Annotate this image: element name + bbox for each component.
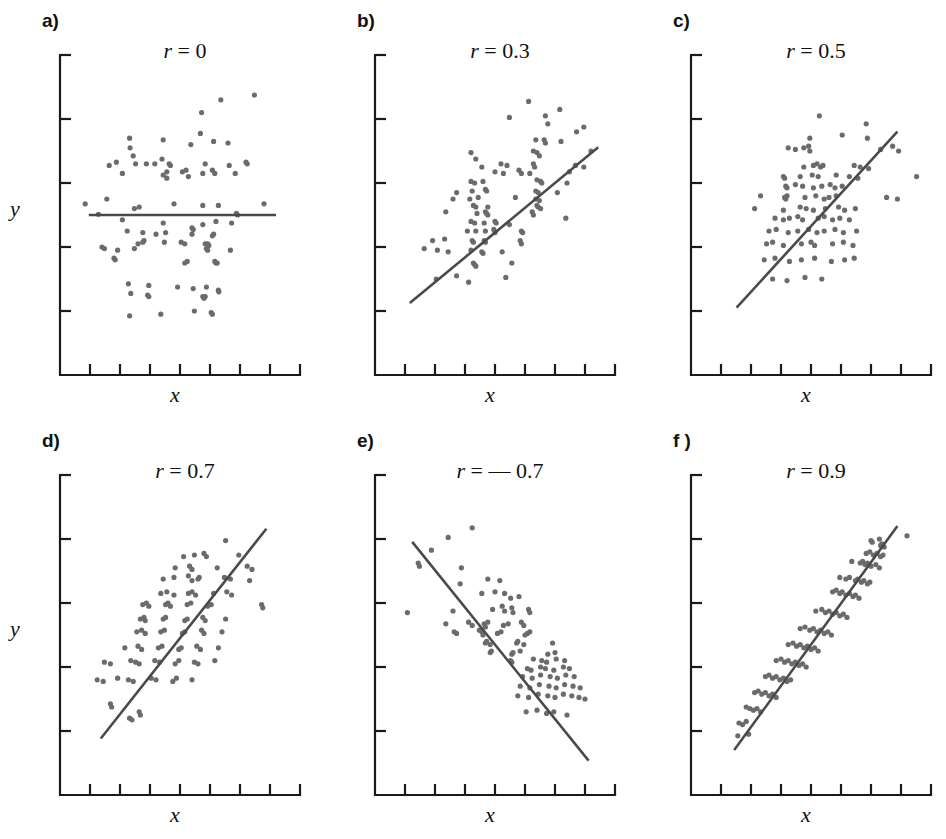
correlation-scatterplot-figure: a)r = 0yxb)r = 0.3xc)r = 0.5xd)r = 0.7yx…: [0, 0, 946, 839]
panel-b: b)r = 0.3x: [315, 0, 630, 419]
plot-area-d: [0, 420, 315, 839]
axis-spines: [375, 55, 615, 375]
scatter-points: [405, 525, 588, 717]
plot-area-b: [315, 0, 630, 419]
regression-line: [101, 529, 267, 739]
y-axis-ticks: [60, 475, 71, 731]
y-axis-ticks: [375, 475, 386, 731]
scatter-points: [95, 538, 266, 722]
plot-area-f: [631, 420, 946, 839]
x-axis-ticks: [90, 784, 300, 795]
scatter-points: [422, 99, 594, 285]
plot-area-e: [315, 420, 630, 839]
x-axis-ticks: [90, 364, 300, 375]
x-axis-ticks: [405, 784, 615, 795]
axis-spines: [60, 475, 300, 795]
x-axis-ticks: [405, 364, 615, 375]
x-axis-ticks: [721, 784, 931, 795]
scatter-points: [735, 533, 909, 738]
plot-area-a: [0, 0, 315, 419]
panel-f: f )r = 0.9x: [631, 420, 946, 839]
panel-a: a)r = 0yx: [0, 0, 315, 419]
y-axis-ticks: [691, 55, 702, 311]
panel-d: d)r = 0.7yx: [0, 420, 315, 839]
y-axis-ticks: [60, 55, 71, 311]
regression-line: [410, 147, 598, 303]
x-axis-ticks: [721, 364, 931, 375]
panel-e: e)r = — 0.7x: [315, 420, 630, 839]
y-axis-ticks: [691, 475, 702, 731]
regression-line: [737, 132, 898, 308]
regression-line: [412, 542, 588, 761]
regression-line: [734, 526, 897, 750]
axis-spines: [691, 55, 931, 375]
axis-spines: [691, 475, 931, 795]
panel-c: c)r = 0.5x: [631, 0, 946, 419]
scatter-points: [83, 92, 267, 318]
plot-area-c: [631, 0, 946, 419]
y-axis-ticks: [375, 55, 386, 311]
